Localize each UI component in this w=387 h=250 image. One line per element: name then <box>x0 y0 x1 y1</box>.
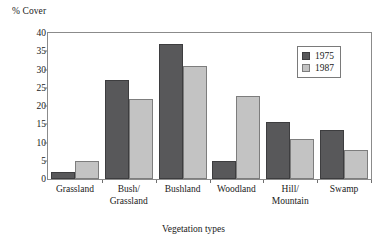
legend-label: 1975 <box>315 51 334 61</box>
legend-entry: 1975 <box>302 50 334 62</box>
x-axis-title: Vegetation types <box>0 224 387 234</box>
bar <box>183 66 207 179</box>
bar <box>105 80 129 179</box>
y-tick-label: 0 <box>41 174 46 184</box>
bar-group <box>210 33 264 179</box>
bar-group <box>156 33 210 179</box>
y-tick-label: 40 <box>37 28 47 38</box>
bar <box>212 161 236 179</box>
legend-label: 1987 <box>315 63 334 73</box>
chart-legend: 19751987 <box>297 46 341 78</box>
bar <box>290 139 314 179</box>
x-tick-mark <box>156 180 157 183</box>
x-category-label: Swamp <box>307 184 381 196</box>
bar <box>51 172 75 179</box>
bar <box>75 161 99 179</box>
legend-entry: 1987 <box>302 62 334 74</box>
bar-group <box>48 33 102 179</box>
x-tick-mark <box>371 180 372 183</box>
bar-chart-figure: % Cover 0510152025303540 GrasslandBush/ … <box>0 0 387 250</box>
bar <box>236 96 260 179</box>
bar <box>266 122 290 179</box>
x-tick-mark <box>210 180 211 183</box>
x-tick-mark <box>102 180 103 183</box>
bar <box>129 99 153 179</box>
x-tick-mark <box>317 180 318 183</box>
bar-group <box>102 33 156 179</box>
dark-swatch-icon <box>302 52 310 60</box>
y-axis-title: % Cover <box>12 6 46 16</box>
bar <box>320 130 344 179</box>
x-tick-mark <box>263 180 264 183</box>
bar <box>159 44 183 179</box>
bar <box>344 150 368 179</box>
light-swatch-icon <box>302 64 310 72</box>
x-axis-category-labels: GrasslandBush/ GrasslandBushlandWoodland… <box>48 184 371 220</box>
